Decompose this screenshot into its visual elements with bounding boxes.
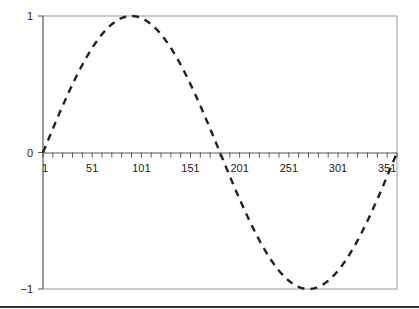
bottom-divider — [0, 306, 419, 308]
x-tick-label: 351 — [378, 162, 396, 174]
x-tick-label: 101 — [132, 162, 150, 174]
y-tick-label: −1 — [20, 283, 33, 295]
sine-wave-chart: 151101151201251301351 10−1 — [0, 0, 419, 309]
x-tick-label: 201 — [230, 162, 248, 174]
y-tick-label: 1 — [27, 10, 33, 22]
x-tick-label: 151 — [181, 162, 199, 174]
x-tick-label: 301 — [329, 162, 347, 174]
x-tick-label: 51 — [86, 162, 98, 174]
x-tick-label: 1 — [42, 162, 48, 174]
y-axis-tick-labels: 10−1 — [20, 10, 43, 295]
x-tick-label: 251 — [280, 162, 298, 174]
x-axis-tick-labels: 151101151201251301351 — [42, 162, 396, 174]
y-tick-label: 0 — [27, 147, 33, 159]
